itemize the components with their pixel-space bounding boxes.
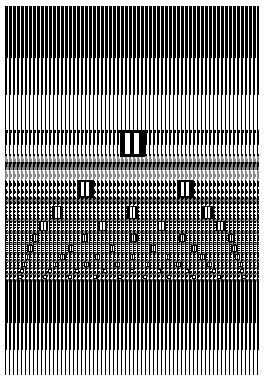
optotype-target bbox=[130, 254, 135, 260]
optotype-target bbox=[52, 206, 63, 219]
test-plate bbox=[5, 6, 259, 379]
optotype-target bbox=[238, 262, 243, 267]
optotype-target bbox=[157, 221, 166, 231]
target-bar bbox=[25, 263, 26, 266]
optotype-target bbox=[165, 254, 170, 260]
target-bar bbox=[179, 263, 180, 266]
optotype-target bbox=[120, 130, 145, 157]
target-bar bbox=[195, 246, 196, 251]
target-bar bbox=[194, 276, 195, 278]
optotype-target bbox=[81, 234, 88, 242]
optotype-target bbox=[43, 275, 47, 279]
optotype-target bbox=[25, 254, 30, 260]
target-bar bbox=[95, 276, 96, 278]
optotype-target bbox=[20, 269, 24, 273]
target-bar bbox=[20, 276, 21, 278]
optotype-target bbox=[200, 254, 205, 260]
contrast-band bbox=[5, 279, 259, 282]
optotype-target bbox=[118, 275, 122, 279]
target-bar bbox=[70, 276, 71, 278]
target-bar bbox=[241, 263, 242, 266]
target-bar bbox=[159, 270, 160, 272]
optotype-target bbox=[98, 221, 107, 231]
optotype-target bbox=[103, 269, 107, 273]
target-bar bbox=[242, 270, 243, 272]
optotype-target bbox=[242, 275, 246, 279]
optotype-target bbox=[231, 245, 237, 252]
target-bar bbox=[77, 270, 78, 272]
optotype-target bbox=[68, 245, 74, 252]
target-bar bbox=[36, 235, 37, 241]
target-bar bbox=[134, 133, 139, 154]
contrast-band bbox=[5, 170, 259, 180]
optotype-target bbox=[228, 234, 235, 242]
optotype-target bbox=[39, 221, 48, 231]
target-bar bbox=[183, 235, 184, 241]
optotype-target bbox=[68, 275, 72, 279]
optotype-target bbox=[60, 254, 65, 260]
target-bar bbox=[45, 276, 46, 278]
target-bar bbox=[238, 255, 239, 259]
target-bar bbox=[221, 222, 223, 230]
target-bar bbox=[105, 270, 106, 272]
optotype-target bbox=[185, 269, 189, 273]
target-bar bbox=[133, 207, 135, 218]
target-bar bbox=[162, 222, 164, 230]
target-bar bbox=[50, 270, 51, 272]
contrast-band bbox=[5, 162, 259, 170]
optotype-target bbox=[157, 269, 161, 273]
target-bar bbox=[168, 255, 169, 259]
target-bar bbox=[208, 207, 210, 218]
optotype-target bbox=[240, 269, 244, 273]
target-bar bbox=[187, 270, 188, 272]
optotype-target bbox=[48, 269, 52, 273]
target-bar bbox=[133, 255, 134, 259]
target-bar bbox=[87, 263, 88, 266]
optotype-target bbox=[176, 262, 181, 267]
target-bar bbox=[235, 246, 236, 251]
target-bar bbox=[63, 255, 64, 259]
contrast-band bbox=[5, 242, 259, 245]
optotype-target bbox=[18, 275, 22, 279]
optotype-target bbox=[150, 245, 156, 252]
target-bar bbox=[58, 207, 60, 218]
optotype-target bbox=[95, 254, 100, 260]
optotype-target bbox=[145, 262, 150, 267]
target-bar bbox=[134, 235, 135, 241]
target-bar bbox=[203, 255, 204, 259]
target-bar bbox=[22, 270, 23, 272]
target-bar bbox=[148, 263, 149, 266]
optotype-target bbox=[235, 254, 240, 260]
target-bar bbox=[103, 222, 105, 230]
optotype-target bbox=[177, 180, 193, 198]
target-bar bbox=[85, 235, 86, 241]
contrast-band bbox=[5, 198, 259, 204]
target-bar bbox=[145, 276, 146, 278]
target-bar bbox=[232, 235, 233, 241]
target-bar bbox=[28, 255, 29, 259]
optotype-target bbox=[84, 262, 89, 267]
target-bar bbox=[244, 276, 245, 278]
target-bar bbox=[219, 276, 220, 278]
optotype-target bbox=[167, 275, 171, 279]
contrast-band bbox=[5, 260, 259, 262]
contrast-sensitivity-chart: Contrast Sensitivity Grating Chart Verti… bbox=[0, 0, 264, 384]
target-bar bbox=[72, 246, 73, 251]
optotype-target bbox=[212, 269, 216, 273]
optotype-target bbox=[143, 275, 147, 279]
target-bar bbox=[56, 263, 57, 266]
target-bar bbox=[118, 263, 119, 266]
target-bar bbox=[31, 246, 32, 251]
target-bar bbox=[214, 270, 215, 272]
grating-scanline bbox=[5, 378, 259, 379]
optotype-target bbox=[53, 262, 58, 267]
optotype-target bbox=[75, 269, 79, 273]
optotype-target bbox=[127, 206, 138, 219]
target-bar bbox=[154, 246, 155, 251]
optotype-target bbox=[207, 262, 212, 267]
optotype-target bbox=[130, 269, 134, 273]
optotype-target bbox=[130, 234, 137, 242]
optotype-target bbox=[22, 262, 27, 267]
optotype-target bbox=[77, 180, 93, 198]
optotype-target bbox=[93, 275, 97, 279]
